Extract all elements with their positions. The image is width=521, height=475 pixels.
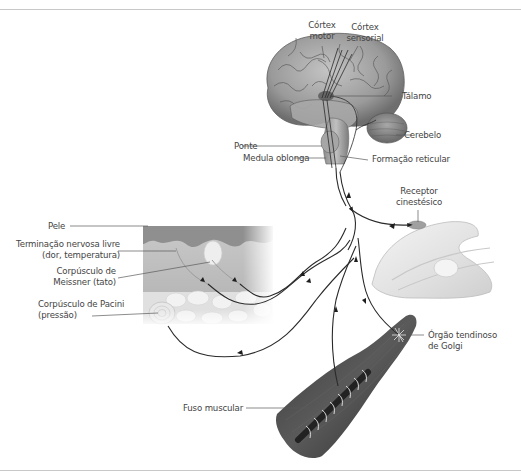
label-cortex-motor-line2: motor	[300, 31, 344, 42]
label-medula-oblonga: Medula oblonga	[243, 153, 309, 164]
label-cortex-motor: Córtex motor	[300, 20, 344, 42]
kinesthetic-receptor	[408, 221, 426, 229]
label-terminacao-line1: Terminação nervosa livre	[6, 239, 120, 250]
muscle-illustration	[276, 315, 417, 458]
label-receptor-cinestesico: Receptor cinestésico	[390, 186, 448, 208]
label-orgao-golgi: Órgão tendinoso de Golgi	[428, 330, 497, 352]
somatosensory-diagram	[0, 0, 521, 475]
label-formacao-reticular: Formação reticular	[372, 154, 450, 165]
label-meissner-line2: Meissner (tato)	[40, 277, 116, 288]
golgi-tendon-organ	[392, 328, 406, 342]
label-corpusculo-meissner: Corpúsculo de Meissner (tato)	[40, 266, 116, 288]
label-talamo: Tálamo	[402, 91, 431, 102]
brain-illustration	[267, 33, 407, 172]
label-terminacao-nervosa: Terminação nervosa livre (dor, temperatu…	[6, 239, 120, 261]
label-cortex-sensorial-line1: Córtex	[340, 22, 390, 33]
label-ponte: Ponte	[234, 141, 258, 152]
label-terminacao-line2: (dor, temperatura)	[6, 250, 120, 261]
label-cortex-motor-line1: Córtex	[300, 20, 344, 31]
label-pacini-line1: Corpúsculo de Pacini	[38, 299, 124, 310]
label-receptor-line2: cinestésico	[390, 197, 448, 208]
label-pele: Pele	[48, 221, 65, 232]
label-fuso-muscular: Fuso muscular	[183, 403, 243, 414]
skin-illustration	[140, 226, 276, 328]
cerebellum	[367, 113, 407, 143]
label-corpusculo-pacini: Corpúsculo de Pacini (pressão)	[38, 299, 124, 321]
label-cortex-sensorial: Córtex sensorial	[340, 22, 390, 44]
label-cortex-sensorial-line2: sensorial	[340, 33, 390, 44]
pons	[321, 131, 339, 153]
label-golgi-line1: Órgão tendinoso	[428, 330, 497, 341]
label-receptor-line1: Receptor	[390, 186, 448, 197]
joint-illustration	[372, 221, 494, 298]
label-golgi-line2: de Golgi	[428, 341, 497, 352]
label-cerebelo: Cerebelo	[404, 130, 441, 141]
label-pacini-line2: (pressão)	[38, 310, 124, 321]
label-meissner-line1: Corpúsculo de	[40, 266, 116, 277]
